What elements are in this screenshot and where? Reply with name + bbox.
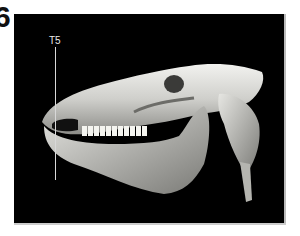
panel-shadow-right — [284, 14, 286, 225]
marker-line — [55, 47, 56, 180]
figure-panel-label: 6 — [0, 2, 11, 32]
marker-label-t5: T5 — [49, 35, 61, 46]
panel-shadow-bottom — [14, 223, 286, 225]
